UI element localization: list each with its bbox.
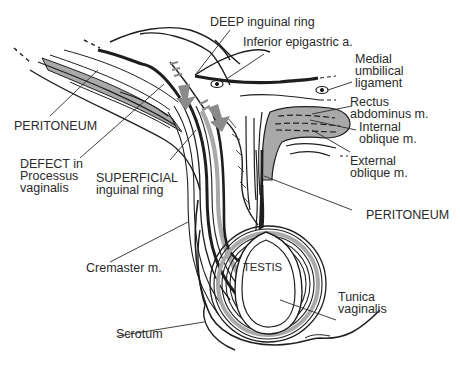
label-superficial-inguinal-ring: SUPERFICIAL inguinal ring xyxy=(96,172,178,196)
label-deep-inguinal-ring: DEEP inguinal ring xyxy=(210,16,315,28)
label-cremaster-muscle: Cremaster m. xyxy=(86,262,162,274)
label-testis: TESTIS xyxy=(243,261,282,273)
arrow-superficial xyxy=(208,104,230,132)
label-rectus-abdominus: Rectus abdominus m. xyxy=(350,96,429,120)
label-external-oblique: External oblique m. xyxy=(350,155,408,179)
label-medial-umbilical-ligament: Medial umbilical ligament xyxy=(355,53,404,89)
upper-right-wall xyxy=(195,76,336,100)
label-peritoneum-left: PERITONEUM xyxy=(14,120,97,132)
label-scrotum: Scrotum xyxy=(116,328,163,340)
label-tunica-vaginalis: Tunica vaginalis xyxy=(338,291,387,315)
label-defect-processus-vaginalis: DEFECT in Processus vaginalis xyxy=(20,158,83,194)
label-internal-oblique: Internal oblique m. xyxy=(359,121,417,145)
label-peritoneum-right: PERITONEUM xyxy=(366,209,449,221)
inguinal-hernia-diagram: DEEP inguinal ring Inferior epigastric a… xyxy=(0,0,460,373)
label-inferior-epigastric-artery: Inferior epigastric a. xyxy=(243,36,353,48)
